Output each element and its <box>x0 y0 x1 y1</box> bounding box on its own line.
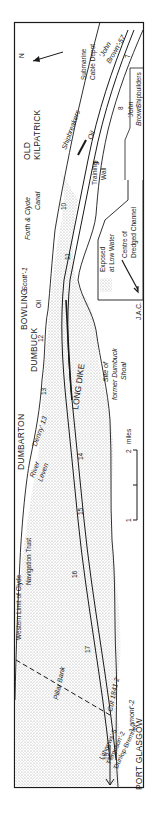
label-forth-clyde: Forth & Clyde <box>24 197 32 240</box>
marker-8: 8 <box>117 106 124 110</box>
label-wall: Wall <box>100 167 107 180</box>
legend-dredged-channel: Dredged Channel <box>130 206 138 258</box>
marker-15: 15 <box>77 507 84 515</box>
town-bowling: BOWLING <box>19 288 29 330</box>
town-dumbuck: DUMBUCK <box>29 327 39 372</box>
marker-14: 14 <box>77 452 84 460</box>
label-shoal: Shoal <box>120 362 127 380</box>
marker-7: 7 <box>124 54 131 58</box>
label-canal: Canal <box>34 191 41 210</box>
label-western-limit: Western Limit of Clyde <box>15 574 23 640</box>
marker-19: 19 <box>103 752 110 760</box>
marker-16: 16 <box>71 570 78 578</box>
town-kilpatrick: KILPATRICK <box>32 110 42 160</box>
scale-tick-2: 2 <box>125 449 132 453</box>
marker-11: 11 <box>64 253 71 260</box>
credit-jac: J.A.C. <box>135 302 142 320</box>
marker-10: 10 <box>60 202 67 210</box>
scale-tick-1: 1 <box>125 518 132 522</box>
label-john-jb: 'John <box>127 101 134 118</box>
legend-at-low-water: at Low Water <box>108 233 115 272</box>
legend-exposed: Exposed <box>99 246 107 272</box>
town-old: OLD <box>22 142 32 160</box>
legend-centre-of: Centre of <box>121 231 128 258</box>
marker-17: 17 <box>84 645 91 653</box>
town-dumbarton: DUMBARTON <box>16 414 26 470</box>
north-label: N <box>18 53 25 58</box>
scale-unit: miles <box>125 428 132 444</box>
label-site-of: Site of <box>102 361 109 382</box>
label-oil-lower: Oil <box>35 300 42 309</box>
label-navigation-trust: Navigation Trust <box>25 538 33 585</box>
marker-13: 13 <box>40 387 47 395</box>
label-former-dumbuck: former Dumbuck <box>111 348 118 400</box>
label-scott-yard: 'Scott'-1 <box>21 267 28 292</box>
legend-stipple-swatch <box>100 278 112 292</box>
marker-12: 12 <box>37 334 44 342</box>
label-submarine: Submarine <box>80 48 87 80</box>
marker-9: 9 <box>92 160 99 164</box>
label-cable-depot: Cable Depot <box>89 44 97 80</box>
label-shipbuilders: Shipbuilders <box>135 71 143 108</box>
clyde-river-map: N 1 2 miles OLD KILPATRICK BOWLING DUMBU… <box>0 0 152 819</box>
